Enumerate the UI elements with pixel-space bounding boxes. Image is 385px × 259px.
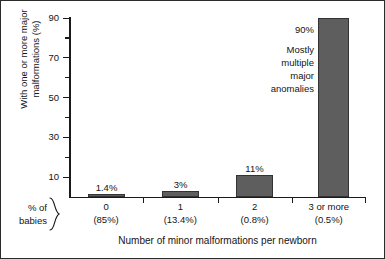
y-tick-minor-40 — [65, 117, 70, 118]
y-axis-title-line1: With one or more major — [18, 9, 29, 108]
x-category-3: 3 or more (0.5%) — [292, 201, 366, 226]
x-axis-title: Number of minor malformations per newbor… — [69, 235, 366, 246]
y-tick-label-90: 90 — [35, 13, 59, 23]
x-category-sublabel-3: (0.5%) — [292, 214, 366, 227]
x-category-1: 1 (13.4%) — [143, 201, 217, 226]
y-tick-70 — [63, 57, 69, 58]
chart-figure: With one or more major malformations (%)… — [0, 0, 385, 259]
x-category-label-2: 2 — [218, 201, 292, 214]
y-tick-10 — [63, 177, 69, 178]
x-category-2: 2 (0.8%) — [218, 201, 292, 226]
y-tick-50 — [63, 97, 69, 98]
bar-value-3: 90% — [240, 23, 314, 36]
y-tick-minor-20 — [65, 157, 70, 158]
bar-value-0: 1.4% — [81, 183, 132, 193]
x-category-label-3: 3 or more — [292, 201, 366, 214]
x-category-0: 0 (85%) — [69, 201, 143, 226]
bar-3 — [318, 18, 349, 197]
x-category-sublabel-1: (13.4%) — [143, 214, 217, 227]
percent-of-babies-line1: % of — [3, 202, 47, 215]
annotation-line-4: anomalies — [240, 82, 314, 95]
annotation-line-2: multiple — [240, 56, 314, 69]
y-tick-minor-80 — [65, 37, 70, 38]
bar-value-2: 11% — [229, 164, 280, 174]
y-tick-label-10: 10 — [35, 172, 59, 182]
y-tick-label-70: 70 — [35, 53, 59, 63]
bar-value-1: 3% — [155, 180, 206, 190]
annotation-line-3: major — [240, 69, 314, 82]
bar-0 — [88, 194, 125, 197]
y-tick-90 — [63, 18, 69, 19]
brace-icon — [48, 197, 62, 231]
bar-1 — [162, 191, 199, 197]
x-category-label-0: 0 — [69, 201, 143, 214]
percent-of-babies-line2: babies — [3, 215, 47, 228]
y-tick-minor-60 — [65, 77, 70, 78]
x-category-sublabel-2: (0.8%) — [218, 214, 292, 227]
y-tick-30 — [63, 137, 69, 138]
y-tick-label-30: 30 — [35, 133, 59, 143]
y-axis-line — [69, 17, 71, 198]
x-category-sublabel-0: (85%) — [69, 214, 143, 227]
annotation-line-1: Mostly — [240, 43, 314, 56]
y-tick-label-50: 50 — [35, 93, 59, 103]
percent-of-babies-label: % of babies — [3, 202, 47, 227]
bar-2 — [236, 175, 273, 197]
tall-bar-annotation: 90% Mostly multiple major anomalies — [240, 23, 314, 95]
x-category-label-1: 1 — [143, 201, 217, 214]
